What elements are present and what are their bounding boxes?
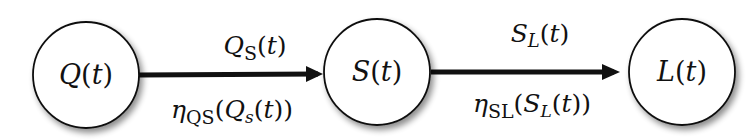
edge-s-l-top-label: SL(t): [511, 19, 570, 51]
node-q-label: Q(t): [59, 59, 113, 90]
flow-diagram: Q(t) S(t) L(t) QS(t) ηQS(Qs(t)) SL(t) ηS…: [0, 0, 750, 140]
edge-q-s-top-label: QS(t): [223, 31, 286, 64]
node-s-label: S(t): [352, 56, 402, 87]
edge-q-to-s: [139, 66, 323, 82]
arrowhead-icon: [306, 66, 323, 82]
edge-s-l-bottom-label: ηSL(SL(t)): [473, 89, 591, 122]
edge-s-to-l: [431, 64, 620, 80]
edge-q-s-bottom-label: ηQS(Qs(t)): [171, 95, 293, 128]
node-l-label: L(t): [656, 56, 707, 87]
arrowhead-icon: [602, 64, 620, 80]
